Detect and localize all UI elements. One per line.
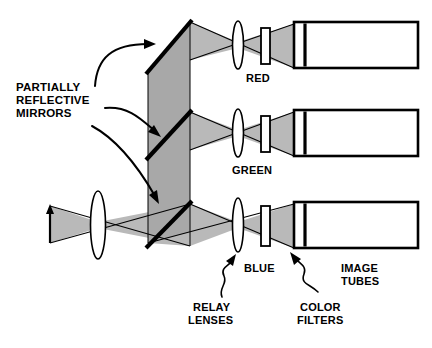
beam-red-to-lens	[190, 22, 238, 60]
label-relay-lenses-line2: LENSES	[188, 314, 233, 326]
leader-color-filters	[290, 252, 318, 292]
label-color-filters-line1: COLOR	[300, 301, 341, 313]
optical-diagram-figure: PARTIALLY REFLECTIVE MIRRORS RED GREEN B…	[0, 0, 432, 348]
image-tube-green[interactable]	[294, 110, 418, 156]
relay-lens-green[interactable]	[233, 109, 244, 157]
relay-lens-blue[interactable]	[233, 198, 244, 252]
relay-lens-red[interactable]	[233, 21, 244, 69]
optical-diagram-canvas: PARTIALLY REFLECTIVE MIRRORS RED GREEN B…	[0, 0, 432, 348]
beam-green-to-lens	[190, 112, 238, 150]
leader-arrow-to-red-mirror	[95, 39, 156, 86]
label-partially-reflective-mirrors-line1: PARTIALLY	[16, 81, 81, 93]
label-partially-reflective-mirrors-line3: MIRRORS	[16, 107, 72, 119]
color-filter-blue[interactable]	[261, 206, 270, 246]
objective-lens[interactable]	[91, 191, 106, 259]
label-image-tubes-line1: IMAGE	[341, 262, 378, 274]
leader-relay-lenses	[221, 254, 236, 297]
color-filter-red[interactable]	[261, 28, 270, 64]
label-red: RED	[246, 72, 270, 84]
label-color-filters-line2: FILTERS	[297, 314, 343, 326]
label-green: GREEN	[232, 164, 272, 176]
label-image-tubes-line2: TUBES	[341, 275, 379, 287]
image-tube-blue[interactable]	[294, 202, 418, 248]
label-blue: BLUE	[244, 262, 275, 274]
image-tube-red[interactable]	[294, 22, 418, 68]
label-partially-reflective-mirrors-line2: REFLECTIVE	[16, 94, 90, 106]
label-relay-lenses-line1: RELAY	[193, 301, 231, 313]
color-filter-green[interactable]	[261, 116, 270, 152]
